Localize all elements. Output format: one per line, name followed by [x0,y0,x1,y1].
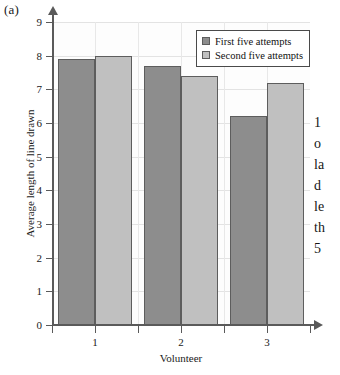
x-axis-tick [181,326,182,333]
y-axis-line [52,14,54,326]
bar [58,59,95,325]
legend-item: Second five attempts [202,48,303,62]
x-axis-tick-label: 1 [80,336,110,348]
margin-text-line: 1 [314,112,340,133]
y-axis-tick [46,224,53,225]
y-axis-tick [46,291,53,292]
x-axis-tick [95,326,96,333]
gridline [224,22,225,325]
y-axis-tick [46,56,53,57]
y-axis-tick [46,157,53,158]
y-axis-tick [46,89,53,90]
x-axis-arrow-icon [314,320,323,330]
legend-item: First five attempts [202,34,303,48]
margin-text-line: le [314,196,340,217]
margin-text-line: la [314,154,340,175]
y-axis-tick [46,190,53,191]
y-axis-tick [46,123,53,124]
y-axis-tick [46,258,53,259]
bar-chart: 0123456789 123 Average length of line dr… [0,0,340,375]
y-axis-title: Average length of line drawn [24,22,36,325]
margin-text-line: o [314,133,340,154]
x-axis-tick-label: 3 [252,336,282,348]
legend-swatch-series2-icon [202,51,210,59]
margin-text-line: 5 [314,238,340,259]
margin-text-line: d [314,175,340,196]
x-axis-tick [310,326,311,333]
bar [267,83,304,325]
margin-text-line: th [314,217,340,238]
bar [144,66,181,325]
x-axis-line [52,324,316,326]
y-axis-tick [46,22,53,23]
bar [95,56,132,325]
x-axis-tick [224,326,225,333]
legend-label-series2: Second five attempts [215,50,303,61]
legend-label-series1: First five attempts [215,36,291,47]
legend-swatch-series1-icon [202,37,210,45]
x-axis-tick [267,326,268,333]
plot-area [52,22,310,325]
bar [230,116,267,325]
x-axis-tick-label: 2 [166,336,196,348]
x-axis-tick [52,326,53,333]
gridline [138,22,139,325]
bar [181,76,218,325]
x-axis-title: Volunteer [52,352,310,364]
x-axis-tick [138,326,139,333]
margin-text-fragment: 1oladleth5 [314,112,340,259]
legend: First five attempts Second five attempts [196,30,310,67]
y-axis-arrow-icon [48,6,58,15]
